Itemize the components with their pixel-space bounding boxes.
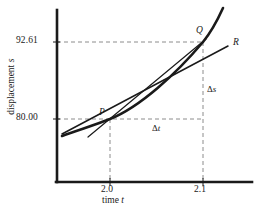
point-label-p: P bbox=[99, 108, 105, 118]
delta-s-label: Δs bbox=[207, 85, 216, 94]
x-tick-label-2-0: 2.0 bbox=[101, 185, 113, 195]
x-axis-title-text: time bbox=[102, 195, 121, 205]
plot-area bbox=[0, 0, 256, 208]
x-tick-label-2-1: 2.1 bbox=[194, 185, 206, 195]
x-axis-title-variable: t bbox=[121, 195, 124, 205]
y-axis-title: displacement s bbox=[7, 47, 17, 127]
displacement-time-graph-figure: 92.61 80.00 2.0 2.1 time t displacement … bbox=[0, 0, 256, 208]
y-axis-title-text: displacement bbox=[6, 62, 16, 115]
axis-lines bbox=[56, 10, 252, 182]
secant-line-pq bbox=[88, 39, 206, 137]
point-q-marker bbox=[202, 41, 204, 43]
y-tick-label-92: 92.61 bbox=[16, 36, 38, 46]
delta-t-label: Δt bbox=[152, 124, 160, 133]
point-p-marker bbox=[109, 118, 111, 120]
axis-ticks bbox=[53, 42, 203, 186]
guide-lines bbox=[57, 42, 203, 181]
delta-t-variable: t bbox=[158, 123, 161, 133]
x-axis-title: time t bbox=[102, 196, 124, 206]
point-label-q: Q bbox=[196, 26, 203, 36]
line-label-r: R bbox=[233, 38, 239, 48]
y-tick-label-80: 80.00 bbox=[16, 113, 38, 123]
y-axis-title-variable: s bbox=[6, 59, 16, 63]
delta-s-variable: s bbox=[213, 84, 217, 94]
